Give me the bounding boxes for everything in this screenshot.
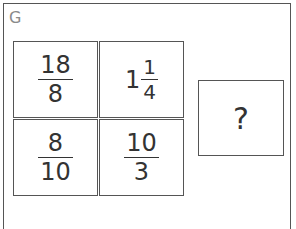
fraction-card-2[interactable]: 1 1 4 — [99, 41, 184, 118]
answer-box[interactable]: ? — [198, 80, 284, 156]
denominator: 3 — [132, 158, 151, 184]
denominator: 4 — [141, 80, 158, 102]
panel-label: G — [9, 8, 21, 27]
question-mark: ? — [233, 101, 249, 136]
denominator: 8 — [46, 80, 65, 106]
numerator: 1 — [141, 57, 158, 79]
fraction: 8 10 — [38, 131, 73, 185]
numerator: 10 — [124, 131, 159, 157]
fraction-card-4[interactable]: 10 3 — [99, 119, 184, 196]
fraction: 18 8 — [38, 53, 73, 107]
mixed-number: 1 1 4 — [125, 57, 158, 103]
numerator: 18 — [38, 53, 73, 79]
fraction-card-1[interactable]: 18 8 — [13, 41, 98, 118]
denominator: 10 — [38, 158, 73, 184]
fraction: 10 3 — [124, 131, 159, 185]
whole-number: 1 — [125, 66, 140, 94]
fraction-card-3[interactable]: 8 10 — [13, 119, 98, 196]
numerator: 8 — [46, 131, 65, 157]
fraction: 1 4 — [141, 57, 158, 103]
